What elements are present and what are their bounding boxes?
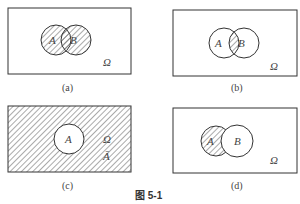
label-a: A — [48, 34, 56, 46]
omega-label: Ω — [270, 60, 278, 72]
omega-label: Ω — [103, 133, 111, 145]
panel-a: A B Ω (a) — [8, 8, 131, 94]
label-a: A — [64, 133, 72, 145]
panel-b: A B Ω (b) — [173, 10, 297, 94]
label-b: B — [234, 135, 241, 147]
label-a: A — [206, 135, 214, 147]
complement-label: Ā — [102, 150, 110, 162]
omega-label: Ω — [270, 154, 278, 166]
label-b: B — [70, 34, 77, 46]
caption-a: (a) — [62, 82, 73, 94]
panel-c: A Ω Ā (c) — [8, 106, 131, 192]
venn-figure: A B Ω (a) A B Ω (b) A Ω Ā (c) A B Ω (d) … — [0, 0, 300, 204]
label-a: A — [214, 37, 222, 49]
caption-d: (d) — [231, 180, 243, 192]
omega-label: Ω — [103, 56, 111, 68]
figure-caption: 图 5-1 — [135, 190, 163, 201]
caption-b: (b) — [231, 82, 243, 94]
label-b: B — [238, 37, 245, 49]
panel-d: A B Ω (d) — [173, 108, 297, 192]
caption-c: (c) — [62, 180, 73, 192]
